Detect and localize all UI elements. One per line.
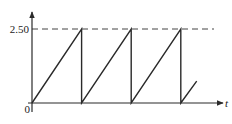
y-tick-label-max: 2.50 xyxy=(10,23,30,35)
sawtooth-series xyxy=(32,29,197,103)
x-axis-label: t xyxy=(225,97,229,109)
sawtooth-chart: 2.50 0 t xyxy=(0,0,232,124)
origin-label: 0 xyxy=(25,103,31,115)
